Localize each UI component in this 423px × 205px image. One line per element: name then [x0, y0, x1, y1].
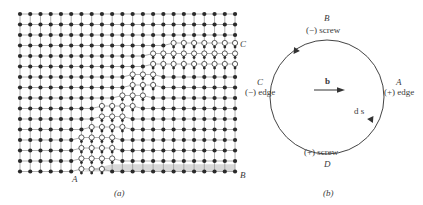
point-label-b: B [240, 171, 246, 180]
lattice-atom [182, 96, 186, 100]
lattice-atom [223, 75, 227, 79]
lattice-atom [172, 33, 176, 37]
lattice-atom [59, 148, 63, 152]
lattice-atom [161, 96, 165, 100]
lattice-atom [141, 169, 145, 173]
displaced-atom [99, 166, 104, 171]
displaced-atom [191, 40, 196, 45]
lattice-atom [28, 138, 32, 142]
displaced-atom [181, 51, 186, 56]
lattice-atom [18, 75, 22, 79]
lattice-atom [182, 33, 186, 37]
lattice-atom [69, 148, 73, 152]
line-element-label: d s [354, 107, 364, 116]
lattice-atom [69, 85, 73, 89]
lattice-atom [151, 33, 155, 37]
lattice-atom [59, 169, 63, 173]
lattice-atom [131, 77, 134, 80]
lattice-atom [121, 130, 124, 133]
lattice-atom [59, 138, 63, 142]
lattice-atom [18, 64, 22, 68]
lattice-atom [90, 140, 93, 143]
lattice-atom [172, 117, 176, 121]
lattice-atom [202, 138, 206, 142]
lattice-atom [49, 54, 53, 58]
lattice-atom [202, 106, 206, 110]
lattice-atom [111, 161, 114, 164]
lattice-atom [110, 169, 114, 173]
lattice-atom [172, 96, 176, 100]
lattice-atom [49, 85, 53, 89]
lattice-atom [110, 85, 114, 89]
lattice-atom [223, 12, 227, 16]
lattice-atom [212, 75, 216, 79]
lattice-atom [223, 96, 227, 100]
lattice-atom [28, 117, 32, 121]
lattice-atom [49, 127, 53, 131]
lattice-atom [18, 148, 22, 152]
lattice-atom [38, 12, 42, 16]
lattice-atom [182, 56, 185, 59]
lattice-atom [101, 109, 104, 112]
lattice-atom [90, 130, 93, 133]
lattice-atom [100, 75, 104, 79]
lattice-atom [233, 148, 237, 152]
displaced-atom [110, 145, 115, 150]
displaced-atom [151, 51, 156, 56]
lattice-atom [212, 127, 216, 131]
displaced-atom [79, 135, 84, 140]
lattice-atom [120, 85, 124, 89]
lattice-atom [131, 33, 135, 37]
lattice-atom [49, 169, 53, 173]
displaced-atom [161, 61, 166, 66]
lattice-atom [202, 12, 206, 16]
lattice-atom [100, 22, 104, 26]
displaced-atom [212, 51, 217, 56]
lattice-atom [49, 159, 53, 163]
displaced-atom [232, 51, 237, 56]
lattice-atom [223, 67, 226, 70]
lattice-atom [59, 64, 63, 68]
lattice-atom [193, 46, 196, 49]
lattice-atom [172, 46, 175, 49]
lattice-atom [131, 64, 135, 68]
lattice-atom [38, 117, 42, 121]
lattice-atom [141, 106, 145, 110]
loop-point-b-letter: B [324, 14, 330, 23]
lattice-atom [151, 43, 155, 47]
lattice-atom [141, 12, 145, 16]
lattice-atom [120, 43, 124, 47]
lattice-atom [192, 75, 196, 79]
lattice-atom [182, 159, 186, 163]
loop-point-a-letter: A [396, 78, 402, 87]
lattice-atom [233, 33, 237, 37]
lattice-atom [69, 159, 73, 163]
lattice-atom [111, 140, 114, 143]
lattice-atom [151, 96, 155, 100]
lattice-atom [49, 106, 53, 110]
lattice-atom [110, 54, 114, 58]
lattice-atom [120, 169, 124, 173]
displaced-atom [89, 145, 94, 150]
lattice-atom [69, 117, 73, 121]
loop-point-d-type: (+) screw [304, 148, 338, 157]
lattice-atom [79, 54, 83, 58]
lattice-atom [80, 172, 83, 175]
displaced-atom [120, 124, 125, 129]
lattice-atom [172, 169, 176, 173]
displaced-atom [232, 40, 237, 45]
lattice-atom [38, 138, 42, 142]
lattice-atom [223, 22, 227, 26]
lattice-atom [202, 75, 206, 79]
lattice-atom [212, 33, 216, 37]
lattice-atom [38, 96, 42, 100]
lattice-atom [141, 88, 144, 91]
lattice-atom [152, 88, 155, 91]
lattice-atom [223, 46, 226, 49]
lattice-atom [28, 54, 32, 58]
displaced-atom [151, 72, 156, 77]
lattice-atom [141, 22, 145, 26]
lattice-atom [233, 138, 237, 142]
lattice-atom [121, 98, 124, 101]
lattice-atom [161, 127, 165, 131]
